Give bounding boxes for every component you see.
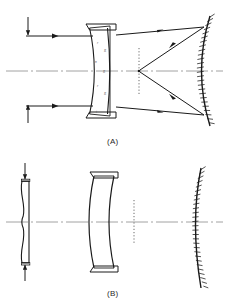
ray-lens-to-mirror-lower (116, 107, 204, 115)
optical-diagram-figure: r R n R r R t (0, 0, 229, 306)
concave-primary-mirror (192, 167, 208, 288)
lens-radius-annotations: r R n R r R t (95, 41, 107, 114)
panel-b-caption: (B) (107, 289, 119, 298)
panel-b: (B) (6, 163, 223, 298)
ray-mirror-to-focus-upper (140, 27, 204, 70)
svg-text:R: R (103, 92, 107, 96)
svg-text:r: r (97, 84, 99, 88)
incoming-ray-top (26, 34, 93, 39)
panel-a-caption: (A) (107, 137, 119, 146)
svg-text:n: n (95, 60, 97, 64)
mirror-hatching (192, 167, 208, 288)
concave-primary-mirror (197, 14, 215, 126)
focus-point (138, 70, 141, 73)
svg-text:r: r (97, 41, 99, 45)
figure-canvas: r R n R r R t (0, 0, 229, 306)
panel-a: r R n R r R t (6, 14, 223, 146)
ray-mirror-to-focus-lower (140, 72, 204, 115)
ray-lens-to-mirror-upper (116, 27, 204, 35)
svg-text:R: R (103, 49, 107, 53)
incoming-ray-bottom (26, 104, 93, 109)
